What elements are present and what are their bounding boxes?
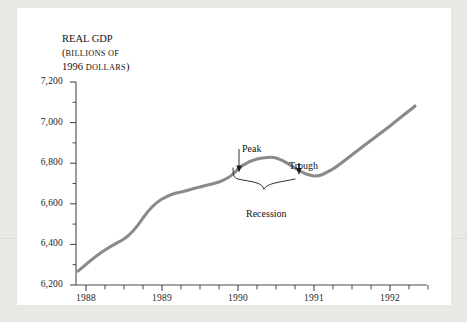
figure-root: REAL GDP (BILLIONS OF 1996 DOLLARS) 7,20… (0, 0, 467, 322)
x-axis-minor-ticks (105, 285, 428, 290)
y-tick-label-6200: 6,200 (29, 279, 63, 289)
gdp-series-line (78, 106, 415, 271)
x-tick-label-1990: 1990 (218, 293, 258, 303)
axis-title-line-1: REAL GDP (62, 32, 130, 46)
annotation-peak-label: Peak (242, 143, 261, 154)
axis-title-line-2: (BILLIONS OF (62, 46, 130, 61)
axis-title-billions: BILLIONS OF (66, 49, 120, 58)
annotation-recession-label: Recession (246, 208, 287, 219)
y-tick-label-6600: 6,600 (29, 198, 63, 208)
y-tick-label-6400: 6,400 (29, 238, 63, 248)
x-tick-label-1989: 1989 (142, 293, 182, 303)
x-tick-label-1988: 1988 (66, 293, 106, 303)
x-tick-label-1992: 1992 (370, 293, 410, 303)
x-tick-label-1991: 1991 (294, 293, 334, 303)
axis-title: REAL GDP (BILLIONS OF 1996 DOLLARS) (62, 32, 130, 75)
axis-title-year: 1996 (62, 61, 83, 72)
axis-title-paren-close: ) (126, 61, 130, 72)
y-tick-label-7000: 7,000 (29, 117, 63, 127)
axis-title-line-3: 1996 DOLLARS) (62, 60, 130, 75)
axis-lines (76, 82, 427, 285)
y-tick-label-6800: 6,800 (29, 157, 63, 167)
annotation-trough-label: Trough (289, 160, 318, 171)
axis-title-real: REAL GDP (62, 33, 113, 44)
axis-title-dollars: DOLLARS (86, 63, 126, 72)
y-tick-label-7200: 7,200 (29, 76, 63, 86)
recession-brace (233, 168, 295, 189)
chart-panel: REAL GDP (BILLIONS OF 1996 DOLLARS) 7,20… (17, 8, 451, 305)
x-axis-major-ticks (86, 285, 390, 291)
